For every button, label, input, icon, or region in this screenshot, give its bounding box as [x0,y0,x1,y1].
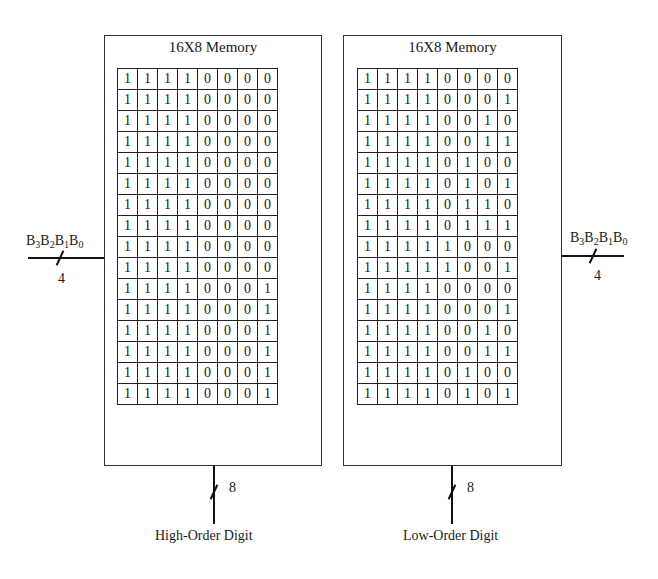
memory-cell: 1 [398,384,418,405]
output-bus-width-low: 8 [467,480,474,496]
memory-cell: 0 [238,279,258,300]
memory-cell: 1 [158,342,178,363]
memory-cell: 1 [378,174,398,195]
memory-cell: 1 [258,300,278,321]
memory-cell: 1 [358,69,378,90]
memory-cell: 0 [198,279,218,300]
memory-row: 11110011 [358,132,518,153]
memory-cell: 1 [438,258,458,279]
memory-cell: 1 [158,363,178,384]
address-bus-width-right: 4 [594,268,601,284]
memory-cell: 1 [158,90,178,111]
memory-cell: 1 [158,153,178,174]
memory-cell: 0 [438,300,458,321]
memory-cell: 0 [438,384,458,405]
memory-cell: 1 [378,342,398,363]
memory-cell: 0 [438,195,458,216]
memory-cell: 0 [238,384,258,405]
memory-cell: 1 [178,363,198,384]
memory-cell: 1 [138,132,158,153]
memory-cell: 1 [138,237,158,258]
memory-cell: 0 [198,237,218,258]
memory-cell: 0 [498,195,518,216]
memory-row: 11110111 [358,216,518,237]
memory-cell: 1 [258,363,278,384]
memory-row: 11110001 [118,279,278,300]
memory-title-high: 16X8 Memory [105,39,321,56]
memory-cell: 0 [238,258,258,279]
memory-grid-high: 1111000011110000111100001111000011110000… [117,68,278,405]
memory-row: 11110000 [118,111,278,132]
memory-cell: 0 [478,384,498,405]
memory-cell: 1 [118,111,138,132]
memory-cell: 0 [218,363,238,384]
memory-cell: 1 [418,300,438,321]
memory-cell: 1 [418,321,438,342]
memory-cell: 1 [138,174,158,195]
memory-cell: 1 [398,132,418,153]
memory-cell: 1 [178,132,198,153]
memory-row: 11110100 [358,363,518,384]
memory-cell: 1 [118,279,138,300]
memory-cell: 1 [498,342,518,363]
memory-cell: 1 [358,174,378,195]
memory-cell: 1 [398,174,418,195]
memory-cell: 1 [498,258,518,279]
memory-cell: 1 [258,279,278,300]
memory-cell: 1 [458,153,478,174]
address-bus-width-left: 4 [58,271,65,287]
memory-cell: 1 [478,321,498,342]
memory-cell: 0 [198,174,218,195]
memory-cell: 0 [258,258,278,279]
memory-cell: 1 [438,237,458,258]
memory-cell: 0 [198,300,218,321]
memory-row: 11110000 [118,90,278,111]
memory-row: 11110000 [118,69,278,90]
memory-cell: 0 [478,363,498,384]
memory-cell: 1 [418,195,438,216]
memory-cell: 1 [178,300,198,321]
memory-cell: 0 [198,342,218,363]
memory-cell: 0 [458,69,478,90]
memory-cell: 0 [498,363,518,384]
memory-cell: 1 [118,342,138,363]
memory-cell: 1 [138,195,158,216]
memory-cell: 1 [118,216,138,237]
memory-cell: 0 [458,258,478,279]
memory-cell: 1 [138,342,158,363]
memory-cell: 1 [418,132,438,153]
memory-cell: 0 [238,174,258,195]
memory-cell: 1 [398,363,418,384]
memory-cell: 0 [438,279,458,300]
memory-cell: 0 [218,111,238,132]
memory-cell: 0 [218,69,238,90]
memory-cell: 1 [158,111,178,132]
memory-cell: 1 [158,258,178,279]
memory-cell: 0 [218,258,238,279]
bit-letter: B [69,233,78,248]
memory-cell: 1 [358,111,378,132]
memory-cell: 1 [358,363,378,384]
memory-cell: 1 [118,69,138,90]
memory-cell: 1 [358,195,378,216]
memory-cell: 0 [438,342,458,363]
memory-row: 11110000 [118,174,278,195]
memory-cell: 1 [378,258,398,279]
memory-cell: 1 [418,216,438,237]
output-label-low: Low-Order Digit [403,528,498,544]
memory-cell: 0 [218,174,238,195]
memory-cell: 1 [118,300,138,321]
memory-row: 11110000 [118,237,278,258]
memory-cell: 1 [158,195,178,216]
memory-cell: 1 [478,195,498,216]
memory-cell: 1 [358,342,378,363]
output-label-high: High-Order Digit [155,528,253,544]
memory-cell: 1 [118,132,138,153]
memory-cell: 1 [138,300,158,321]
address-bus-left [28,257,104,259]
memory-cell: 1 [178,111,198,132]
memory-cell: 0 [458,342,478,363]
memory-cell: 1 [398,300,418,321]
memory-cell: 1 [158,237,178,258]
memory-cell: 0 [438,216,458,237]
